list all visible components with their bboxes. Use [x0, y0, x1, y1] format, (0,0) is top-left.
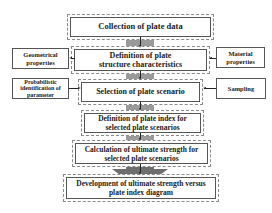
step-collection-label: Collection of plate data [70, 17, 211, 37]
step-calculation-box: Calculation of ultimate strength for sel… [72, 140, 211, 167]
arrowhead-icon [139, 108, 141, 111]
input-probabilistic-label: Probabilistic identification of paramete… [13, 79, 68, 99]
input-geometrical-label: Geometrical properties [13, 51, 68, 66]
arrowhead-icon [78, 87, 81, 89]
input-geometrical-properties: Geometrical properties [12, 48, 69, 69]
step-selection-label: Selection of plate scenario [81, 82, 200, 102]
arrow-probabilistic-selection [69, 88, 78, 89]
input-material-properties: Material properties [216, 47, 265, 68]
input-sampling: Sampling [216, 78, 266, 99]
step-development-box: Development of ultimate strength versus … [63, 174, 219, 202]
step-development-label: Development of ultimate strength versus … [66, 177, 216, 199]
step-plate-index-label: Definition of plate index for selected p… [84, 113, 201, 133]
arrow-collection-definition [140, 37, 141, 45]
step-plate-index-box: Definition of plate index for selected p… [81, 110, 204, 136]
input-material-label: Material properties [217, 50, 264, 65]
input-sampling-label: Sampling [228, 85, 254, 93]
arrowhead-icon [139, 138, 141, 141]
arrowhead-icon [139, 172, 141, 175]
arrowhead-icon [139, 77, 141, 80]
step-definition-label: Definition of plate structure characteri… [74, 49, 207, 71]
arrow-calculation-development [140, 164, 141, 172]
arrowhead-icon [209, 57, 212, 59]
arrowhead-icon [139, 45, 141, 48]
arrowhead-icon [203, 87, 206, 89]
arrowhead-icon [69, 57, 72, 59]
step-definition-box: Definition of plate structure characteri… [71, 46, 210, 74]
input-probabilistic-identification: Probabilistic identification of paramete… [12, 78, 69, 99]
step-calculation-label: Calculation of ultimate strength for sel… [75, 143, 208, 164]
